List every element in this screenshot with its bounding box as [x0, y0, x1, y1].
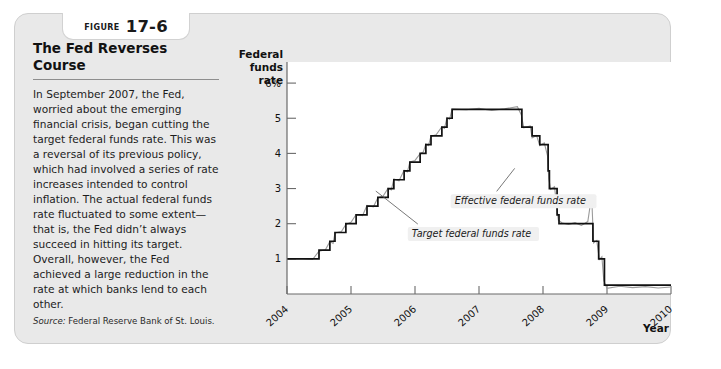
title-divider	[33, 79, 219, 80]
x-tick-label: 2005	[328, 303, 354, 328]
y-tick-label: 1	[275, 253, 281, 264]
x-tick-label: 2009	[584, 303, 610, 328]
y-ticks: 6%54321	[265, 78, 296, 265]
chart-svg: 6%54321 2004200520062007200820092010 Eff…	[221, 36, 671, 336]
figure-title: The Fed Reverses Course	[31, 40, 221, 79]
x-axis-title: Year	[642, 322, 670, 334]
annotation-leader-line	[497, 168, 515, 191]
annotation-leader-line	[376, 191, 418, 224]
x-ticks: 2004200520062007200820092010	[264, 286, 674, 329]
caption-column: The Fed Reverses Course In September 200…	[31, 40, 221, 327]
x-tick-label: 2004	[264, 303, 290, 328]
source-label: Source:	[33, 316, 66, 326]
x-tick-label: 2007	[456, 303, 482, 328]
x-tick-label: 2006	[392, 303, 418, 328]
y-tick-label: 5	[275, 113, 281, 124]
x-tick-label: 2008	[520, 303, 546, 328]
y-tick-label: 6%	[265, 78, 281, 89]
chart-area: Federal funds rate 6%54321 2004200520062…	[221, 36, 671, 336]
figure-root: Figure 17-6 The Fed Reverses Course In S…	[0, 0, 721, 369]
caption-body-text: In September 2007, the Fed, worried abou…	[31, 87, 221, 312]
source-text: Federal Reserve Bank of St. Louis.	[68, 316, 214, 326]
figure-label: Figure	[84, 20, 120, 33]
y-tick-label: 4	[275, 148, 281, 159]
chart-annotation-label: Target federal funds rate	[412, 228, 532, 239]
chart-annotation-label: Effective federal funds rate	[455, 195, 586, 206]
figure-number: 17-6	[126, 17, 168, 36]
annotations-group: Effective federal funds rateTarget feder…	[376, 168, 597, 241]
figure-number-badge: Figure 17-6	[62, 13, 190, 40]
y-tick-label: 2	[275, 218, 281, 229]
figure-panel: Figure 17-6 The Fed Reverses Course In S…	[14, 13, 671, 344]
caption-source: Source: Federal Reserve Bank of St. Loui…	[31, 312, 221, 327]
y-tick-label: 3	[275, 183, 281, 194]
